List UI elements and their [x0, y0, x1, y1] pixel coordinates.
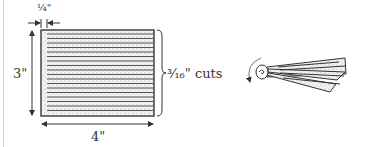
width-label: 4": [91, 130, 105, 143]
fabric-rectangle: [41, 30, 154, 116]
margin-dimension: [28, 19, 60, 28]
brace: [157, 30, 166, 116]
height-label: 3": [13, 67, 27, 80]
margin-label: ¼": [37, 3, 51, 13]
cuts-label: ³⁄₁₆" cuts: [167, 67, 222, 80]
rolled-fringe: [249, 58, 346, 92]
